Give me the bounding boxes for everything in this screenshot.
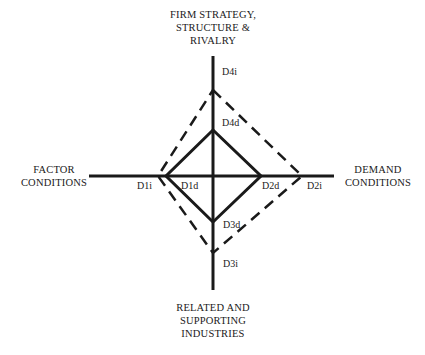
label-factor-conditions: FACTOR CONDITIONS xyxy=(18,163,90,189)
label-line: STRUCTURE & xyxy=(143,21,283,34)
label-line: DEMAND xyxy=(338,163,418,176)
label-firm-strategy: FIRM STRATEGY, STRUCTURE & RIVALRY xyxy=(143,8,283,47)
point-d3d: D3d xyxy=(223,219,240,231)
label-line: CONDITIONS xyxy=(338,176,418,189)
point-d2i: D2i xyxy=(307,180,322,192)
label-line: INDUSTRIES xyxy=(143,327,283,340)
label-line: CONDITIONS xyxy=(18,176,90,189)
label-line: FACTOR xyxy=(18,163,90,176)
point-d4d: D4d xyxy=(222,117,239,129)
label-line: RELATED AND xyxy=(143,301,283,314)
label-related-supporting: RELATED AND SUPPORTING INDUSTRIES xyxy=(143,301,283,340)
point-d1d: D1d xyxy=(181,180,198,192)
label-line: RIVALRY xyxy=(143,34,283,47)
label-line: SUPPORTING xyxy=(143,314,283,327)
label-demand-conditions: DEMAND CONDITIONS xyxy=(338,163,418,189)
label-line: FIRM STRATEGY, xyxy=(143,8,283,21)
point-d1i: D1i xyxy=(137,180,152,192)
point-d4i: D4i xyxy=(222,66,237,78)
point-d2d: D2d xyxy=(262,180,279,192)
point-d3i: D3i xyxy=(223,258,238,270)
